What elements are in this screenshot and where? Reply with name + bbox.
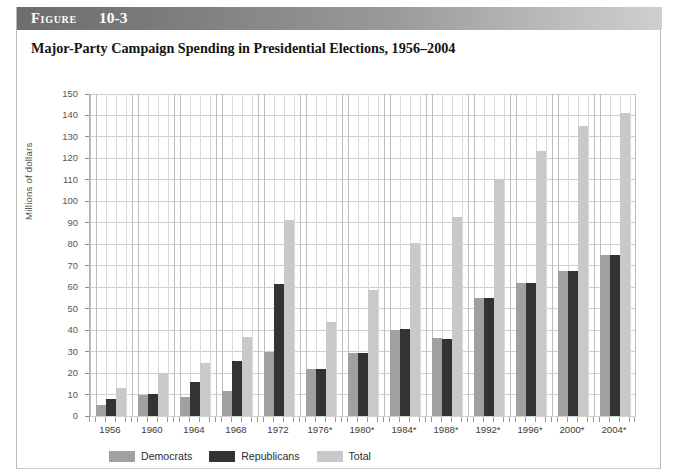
x-gridline xyxy=(594,94,595,416)
x-tick-mark xyxy=(515,417,516,422)
y-tick-mark xyxy=(85,222,89,223)
bar-total-1976 xyxy=(326,322,335,416)
x-gridline xyxy=(462,94,463,416)
bar-total-1972 xyxy=(284,220,293,416)
bar-democrats-1992 xyxy=(474,298,483,416)
y-tick-mark xyxy=(85,201,89,202)
x-tick-mark xyxy=(473,417,474,422)
x-tick-mark xyxy=(425,417,426,422)
x-gridline xyxy=(510,94,511,416)
bar-democrats-1972 xyxy=(264,352,273,416)
bar-republicans-1980 xyxy=(358,353,367,416)
bar-democrats-2000 xyxy=(558,271,567,416)
y-tick-label: 30 xyxy=(52,346,78,357)
y-gridline xyxy=(90,115,636,116)
x-tick-mark xyxy=(131,417,132,422)
x-tick-mark xyxy=(347,417,348,422)
bar-democrats-1960 xyxy=(138,395,147,416)
bar-total-1992 xyxy=(494,179,503,416)
y-tick-label: 140 xyxy=(52,109,78,120)
x-tick-label-1992: 1992* xyxy=(475,424,500,435)
x-tick-mark xyxy=(125,417,126,422)
x-gridline xyxy=(258,94,259,416)
figure-caption: Major-Party Campaign Spending in Preside… xyxy=(31,40,641,57)
x-tick-mark xyxy=(305,417,306,422)
x-tick-mark xyxy=(409,417,410,422)
y-tick-label: 20 xyxy=(52,367,78,378)
x-gridline xyxy=(180,94,181,416)
x-tick-mark xyxy=(157,417,158,422)
x-tick-label-2004: 2004* xyxy=(601,424,626,435)
y-gridline xyxy=(90,244,636,245)
x-tick-label-1956: 1956 xyxy=(99,424,120,435)
x-tick-mark xyxy=(383,417,384,422)
figure-number: 10-3 xyxy=(99,9,127,27)
y-gridline xyxy=(90,308,636,309)
x-tick-label-2000: 2000* xyxy=(559,424,584,435)
legend-swatch-democrats xyxy=(109,451,135,462)
y-tick-label: 10 xyxy=(52,389,78,400)
x-tick-mark xyxy=(629,417,630,422)
x-tick-mark xyxy=(587,417,588,422)
x-tick-mark xyxy=(509,417,510,422)
x-tick-mark xyxy=(593,417,594,422)
bar-total-1968 xyxy=(242,337,251,416)
x-tick-label-1968: 1968 xyxy=(225,424,246,435)
bar-democrats-1980 xyxy=(348,353,357,416)
x-tick-mark xyxy=(105,417,106,422)
x-gridline xyxy=(126,94,127,416)
y-tick-mark xyxy=(85,287,89,288)
x-gridline xyxy=(316,94,317,416)
x-gridline xyxy=(222,94,223,416)
bar-republicans-1996 xyxy=(526,283,535,416)
x-tick-mark xyxy=(467,417,468,422)
bar-democrats-1956 xyxy=(96,405,105,416)
x-tick-mark xyxy=(273,417,274,422)
y-gridline xyxy=(90,330,636,331)
y-tick-label: 0 xyxy=(52,410,78,421)
bar-total-1996 xyxy=(536,151,545,416)
x-gridline xyxy=(426,94,427,416)
x-tick-mark xyxy=(634,417,635,422)
x-gridline xyxy=(384,94,385,416)
x-tick-mark xyxy=(263,417,264,422)
y-tick-label: 80 xyxy=(52,238,78,249)
chart: Millions of dollars 19561960196419681972… xyxy=(17,70,662,469)
x-tick-mark xyxy=(577,417,578,422)
y-tick-label: 120 xyxy=(52,152,78,163)
x-gridline xyxy=(342,94,343,416)
y-tick-mark xyxy=(85,265,89,266)
bar-total-1960 xyxy=(158,373,167,416)
y-tick-mark xyxy=(85,244,89,245)
y-tick-mark xyxy=(85,373,89,374)
bar-total-1956 xyxy=(116,388,125,416)
bar-republicans-2004 xyxy=(610,255,619,416)
y-tick-label: 50 xyxy=(52,303,78,314)
x-gridline xyxy=(552,94,553,416)
x-gridline xyxy=(106,94,107,416)
x-gridline xyxy=(96,94,97,416)
x-gridline xyxy=(148,94,149,416)
x-tick-mark xyxy=(257,417,258,422)
x-tick-mark xyxy=(557,417,558,422)
x-tick-label-1988: 1988* xyxy=(433,424,458,435)
x-tick-label-1976: 1976* xyxy=(307,424,332,435)
y-gridline xyxy=(90,222,636,223)
legend-label-total: Total xyxy=(349,450,371,462)
x-tick-mark xyxy=(503,417,504,422)
bar-democrats-1984 xyxy=(390,330,399,416)
y-tick-label: 110 xyxy=(52,174,78,185)
x-tick-mark xyxy=(335,417,336,422)
bar-republicans-1988 xyxy=(442,339,451,416)
bar-republicans-1976 xyxy=(316,369,325,416)
x-tick-mark xyxy=(451,417,452,422)
bar-republicans-1964 xyxy=(190,382,199,416)
x-gridline xyxy=(468,94,469,416)
y-gridline xyxy=(90,351,636,352)
bar-democrats-1976 xyxy=(306,369,315,416)
bar-republicans-1956 xyxy=(106,399,115,416)
y-gridline xyxy=(90,201,636,202)
x-tick-mark xyxy=(535,417,536,422)
x-gridline xyxy=(90,94,91,416)
y-tick-mark xyxy=(85,330,89,331)
